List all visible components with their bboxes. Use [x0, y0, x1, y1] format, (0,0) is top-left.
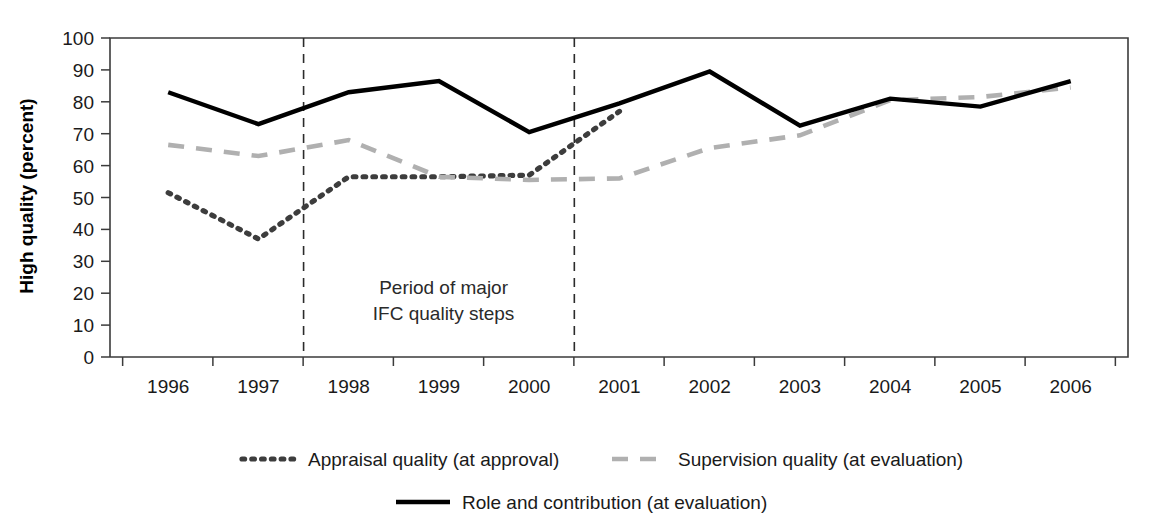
- y-tick-label: 90: [73, 60, 94, 81]
- x-tick-label-1999: 1999: [418, 376, 460, 397]
- figure-container: High quality (percent) 01020304050607080…: [0, 0, 1151, 527]
- y-axis-title-group: High quality (percent): [16, 98, 37, 293]
- y-tick-label: 40: [73, 219, 94, 240]
- y-tick-label: 100: [62, 28, 94, 49]
- period-of-major-ifc-quality-steps-line-0: Period of major: [379, 277, 509, 298]
- y-axis-title: High quality (percent): [16, 98, 37, 293]
- x-tick-label-1998: 1998: [328, 376, 370, 397]
- plot-border: [110, 38, 1128, 357]
- plot-frame: [110, 38, 1128, 357]
- annotations-group: Period of majorIFC quality steps: [373, 277, 515, 324]
- x-axis-ticks: 1996199719981999200020012002200320042005…: [123, 357, 1116, 397]
- x-tick-label-2000: 2000: [508, 376, 550, 397]
- y-tick-label: 60: [73, 156, 94, 177]
- y-tick-label: 70: [73, 124, 94, 145]
- legend-label-0: Appraisal quality (at approval): [308, 449, 559, 470]
- y-tick-label: 10: [73, 315, 94, 336]
- x-tick-label-1997: 1997: [237, 376, 279, 397]
- line-chart: High quality (percent) 01020304050607080…: [0, 0, 1151, 527]
- period-of-major-ifc-quality-steps-line-1: IFC quality steps: [373, 303, 515, 324]
- legend-label-1: Supervision quality (at evaluation): [678, 449, 963, 470]
- x-tick-label-2002: 2002: [689, 376, 731, 397]
- x-tick-label-2004: 2004: [869, 376, 912, 397]
- x-tick-label-2006: 2006: [1050, 376, 1092, 397]
- y-tick-label: 20: [73, 283, 94, 304]
- x-tick-label-2001: 2001: [598, 376, 640, 397]
- legend-label-2: Role and contribution (at evaluation): [462, 492, 767, 513]
- chart-legend: Appraisal quality (at approval)Supervisi…: [242, 449, 963, 513]
- x-tick-label-1996: 1996: [147, 376, 189, 397]
- y-tick-label: 80: [73, 92, 94, 113]
- series-line-0: [168, 111, 619, 239]
- y-axis-ticks: 0102030405060708090100: [62, 28, 110, 368]
- y-tick-label: 30: [73, 251, 94, 272]
- y-tick-label: 0: [83, 347, 94, 368]
- y-tick-label: 50: [73, 188, 94, 209]
- x-tick-label-2005: 2005: [959, 376, 1001, 397]
- x-tick-label-2003: 2003: [779, 376, 821, 397]
